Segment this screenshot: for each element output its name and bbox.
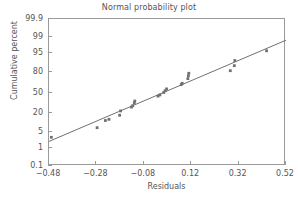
reference-line	[49, 40, 286, 141]
data-point	[265, 49, 268, 52]
data-point	[186, 77, 189, 80]
x-tick-label: −0.28	[83, 169, 108, 178]
data-point	[119, 110, 122, 113]
plot-area	[48, 18, 285, 165]
chart-title: Normal probability plot	[0, 3, 298, 12]
y-tick-mark	[48, 92, 52, 93]
x-tick-mark	[285, 161, 286, 165]
data-point	[104, 119, 107, 122]
x-axis-label: Residuals	[48, 182, 285, 191]
x-tick-mark	[95, 161, 96, 165]
data-point	[118, 114, 121, 117]
data-point	[187, 74, 190, 77]
x-tick-mark	[48, 161, 49, 165]
y-tick-label: 20	[3, 107, 43, 116]
data-point	[187, 72, 190, 75]
x-tick-label: −0.08	[131, 169, 156, 178]
y-tick-label: 1	[3, 142, 43, 151]
data-point	[96, 126, 99, 129]
reference-line-segment	[49, 40, 286, 141]
y-tick-label: 99.9	[3, 14, 43, 23]
data-point	[108, 118, 111, 121]
x-tick-label: 0.12	[181, 169, 199, 178]
y-tick-label: 95	[3, 48, 43, 57]
y-tick-mark	[48, 52, 52, 53]
y-tick-mark	[48, 131, 52, 132]
data-point	[165, 88, 168, 91]
y-tick-label: 5	[3, 126, 43, 135]
x-tick-label: −0.48	[36, 169, 61, 178]
y-tick-mark	[48, 112, 52, 113]
y-tick-label: 50	[3, 87, 43, 96]
data-point	[133, 100, 136, 103]
data-point	[159, 93, 162, 96]
x-tick-label: 0.32	[229, 169, 247, 178]
y-tick-mark	[48, 71, 52, 72]
y-tick-label: 80	[3, 67, 43, 76]
y-tick-mark	[48, 18, 52, 19]
data-points-group	[50, 49, 268, 138]
y-tick-label: 99	[3, 32, 43, 41]
data-point	[181, 82, 184, 85]
plot-canvas	[49, 19, 286, 166]
data-point	[229, 69, 232, 72]
data-point	[50, 136, 53, 139]
y-tick-mark	[48, 36, 52, 37]
x-tick-label: 0.52	[276, 169, 294, 178]
data-point	[233, 59, 236, 62]
y-tick-mark	[48, 165, 52, 166]
data-point	[131, 104, 134, 107]
x-tick-mark	[238, 161, 239, 165]
y-tick-mark	[48, 147, 52, 148]
data-point	[233, 64, 236, 67]
x-tick-mark	[143, 161, 144, 165]
normal-probability-plot-figure: Normal probability plot Cumulative perce…	[0, 0, 298, 198]
x-tick-mark	[190, 161, 191, 165]
